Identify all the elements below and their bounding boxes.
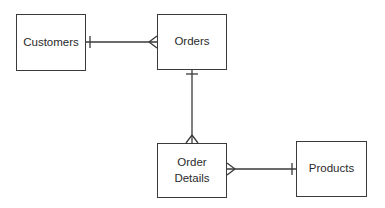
entity-order-details: Order Details bbox=[157, 143, 227, 198]
relationship-orders-orderdetails bbox=[186, 70, 198, 143]
entity-label: Products bbox=[309, 161, 354, 177]
entity-products: Products bbox=[296, 141, 367, 197]
entity-label: Orders bbox=[174, 34, 209, 50]
entity-label: Customers bbox=[23, 35, 79, 51]
entity-orders: Orders bbox=[157, 14, 227, 70]
entity-customers: Customers bbox=[16, 14, 86, 71]
relationship-customers-orders bbox=[86, 36, 157, 48]
entity-label: Order Details bbox=[174, 155, 209, 186]
er-diagram-canvas: Customers Orders Order Details Products bbox=[0, 0, 385, 208]
relationship-orderdetails-products bbox=[227, 163, 296, 175]
